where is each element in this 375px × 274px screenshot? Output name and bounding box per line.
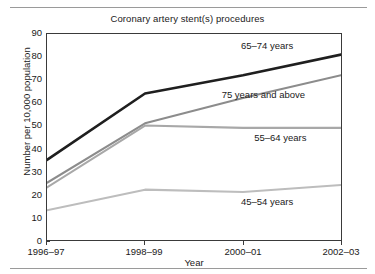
y-tick-label-20: 20	[0, 190, 42, 200]
y-tick-label-50: 50	[0, 120, 42, 130]
y-tick-label-0: 0	[0, 236, 42, 246]
series-label-55-64-years: 55–64 years	[254, 132, 306, 143]
x-axis-title: Year	[46, 257, 342, 268]
y-tick-label-40: 40	[0, 144, 42, 154]
x-tick-mark-1998-99	[144, 241, 145, 245]
series-label-75-years-and-above: 75 years and above	[222, 89, 305, 100]
y-tick-label-10: 10	[0, 213, 42, 223]
top-divider	[10, 7, 367, 8]
x-tick-label-1996-97: 1996–97	[11, 246, 81, 257]
y-tick-label-90: 90	[0, 28, 42, 38]
y-tick-label-80: 80	[0, 51, 42, 61]
y-tick-label-60: 60	[0, 97, 42, 107]
x-tick-mark-1996-97	[46, 241, 47, 245]
x-tick-mark-2000-01	[243, 241, 244, 245]
figure-container: Coronary artery stent(s) procedures Numb…	[0, 0, 375, 274]
x-tick-mark-2002-03	[341, 241, 342, 245]
bottom-divider	[10, 268, 367, 269]
series-label-65-74-years: 65–74 years	[241, 40, 293, 51]
x-tick-label-1998-99: 1998–99	[109, 246, 179, 257]
x-tick-label-2002-03: 2002–03	[306, 246, 375, 257]
y-tick-label-30: 30	[0, 167, 42, 177]
chart-title: Coronary artery stent(s) procedures	[0, 13, 375, 24]
y-axis-tick-labels: 0 10 20 30 40 50 60 70 80 90	[0, 33, 42, 241]
line-45-54-years	[47, 185, 341, 210]
y-tick-label-70: 70	[0, 74, 42, 84]
x-tick-label-2000-01: 2000–01	[208, 246, 278, 257]
line-65-74-years	[47, 55, 341, 160]
plot-area: 65–74 years 75 years and above 55–64 yea…	[46, 33, 342, 241]
series-label-45-54-years: 45–54 years	[241, 196, 293, 207]
